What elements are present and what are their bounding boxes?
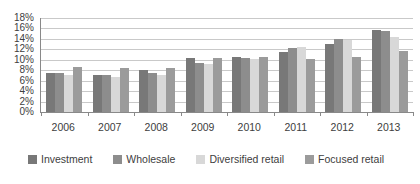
legend-label: Wholesale: [126, 153, 175, 165]
legend-swatch: [28, 155, 37, 164]
legend-item-investment: Investment: [28, 153, 92, 165]
bar-focused-retail-2012: [352, 57, 361, 112]
bar-wholesale-2010: [241, 58, 250, 112]
bar-wholesale-2007: [102, 75, 111, 112]
bar-group-2011: [279, 18, 315, 112]
x-axis-tick: [320, 112, 321, 116]
x-axis-tick: [41, 112, 42, 116]
bar-investment-2006: [46, 73, 55, 112]
legend-item-wholesale: Wholesale: [113, 153, 175, 165]
legend-swatch: [305, 155, 314, 164]
x-axis-label-2007: 2007: [87, 121, 133, 133]
legend-label: Investment: [41, 153, 92, 165]
bar-wholesale-2006: [55, 73, 64, 112]
x-axis-label-2008: 2008: [133, 121, 179, 133]
bar-wholesale-2013: [381, 31, 390, 112]
y-axis: 0%2%4%6%8%10%12%14%16%18%: [0, 0, 37, 120]
bar-group-2012: [325, 18, 361, 112]
bar-diversified-retail-2013: [390, 37, 399, 112]
x-axis-label-2009: 2009: [180, 121, 226, 133]
bar-group-2007: [93, 18, 129, 112]
bar-group-2010: [232, 18, 268, 112]
bar-focused-retail-2006: [73, 67, 82, 112]
bar-focused-retail-2007: [120, 68, 129, 112]
x-axis-label-2006: 2006: [40, 121, 86, 133]
bar-focused-retail-2010: [259, 57, 268, 112]
bar-diversified-retail-2008: [157, 75, 166, 112]
x-axis-label-2012: 2012: [319, 121, 365, 133]
y-axis-label: 4%: [0, 86, 34, 96]
legend-label: Diversified retail: [209, 153, 284, 165]
legend: InvestmentWholesaleDiversified retailFoc…: [28, 153, 420, 165]
bar-investment-2011: [279, 52, 288, 112]
bar-diversified-retail-2011: [297, 47, 306, 112]
legend-item-focused-retail: Focused retail: [305, 153, 384, 165]
bar-group-2008: [139, 18, 175, 112]
bar-focused-retail-2011: [306, 59, 315, 112]
bar-group-2013: [372, 18, 408, 112]
x-axis-label-2011: 2011: [273, 121, 319, 133]
bar-diversified-retail-2006: [64, 75, 73, 112]
legend-label: Focused retail: [318, 153, 384, 165]
bar-diversified-retail-2010: [250, 59, 259, 112]
bar-investment-2013: [372, 30, 381, 112]
bar-wholesale-2012: [334, 39, 343, 112]
bar-wholesale-2008: [148, 73, 157, 112]
bar-investment-2007: [93, 75, 102, 112]
x-axis-tick: [134, 112, 135, 116]
bar-groups: [41, 18, 413, 112]
bar-chart: 0%2%4%6%8%10%12%14%16%18% 20062007200820…: [0, 0, 420, 184]
bar-investment-2010: [232, 57, 241, 112]
bar-investment-2009: [186, 58, 195, 112]
legend-swatch: [113, 155, 122, 164]
bar-diversified-retail-2012: [343, 40, 352, 112]
bar-focused-retail-2008: [166, 68, 175, 112]
bar-wholesale-2009: [195, 63, 204, 112]
bar-investment-2008: [139, 70, 148, 112]
legend-item-diversified-retail: Diversified retail: [196, 153, 284, 165]
y-axis-label: 8%: [0, 65, 34, 75]
x-axis-tick: [274, 112, 275, 116]
legend-swatch: [196, 155, 205, 164]
y-axis-label: 18%: [0, 13, 34, 23]
y-axis-label: 2%: [0, 97, 34, 107]
x-axis: 20062007200820092010201120122013: [40, 121, 412, 133]
y-axis-label: 10%: [0, 55, 34, 65]
y-axis-label: 12%: [0, 44, 34, 54]
y-axis-label: 0%: [0, 107, 34, 117]
bar-wholesale-2011: [288, 48, 297, 112]
y-axis-label: 16%: [0, 23, 34, 33]
x-axis-tick: [413, 112, 414, 116]
bar-diversified-retail-2009: [204, 64, 213, 112]
x-axis-tick: [181, 112, 182, 116]
y-axis-label: 6%: [0, 76, 34, 86]
bar-focused-retail-2009: [213, 58, 222, 112]
x-axis-tick: [88, 112, 89, 116]
bar-focused-retail-2013: [399, 51, 408, 112]
x-axis-label-2010: 2010: [226, 121, 272, 133]
bar-diversified-retail-2007: [111, 77, 120, 113]
plot-area: [40, 18, 413, 113]
x-axis-tick: [227, 112, 228, 116]
bar-group-2009: [186, 18, 222, 112]
bar-group-2006: [46, 18, 82, 112]
bar-investment-2012: [325, 44, 334, 112]
x-axis-tick: [367, 112, 368, 116]
x-axis-label-2013: 2013: [366, 121, 412, 133]
y-axis-label: 14%: [0, 34, 34, 44]
